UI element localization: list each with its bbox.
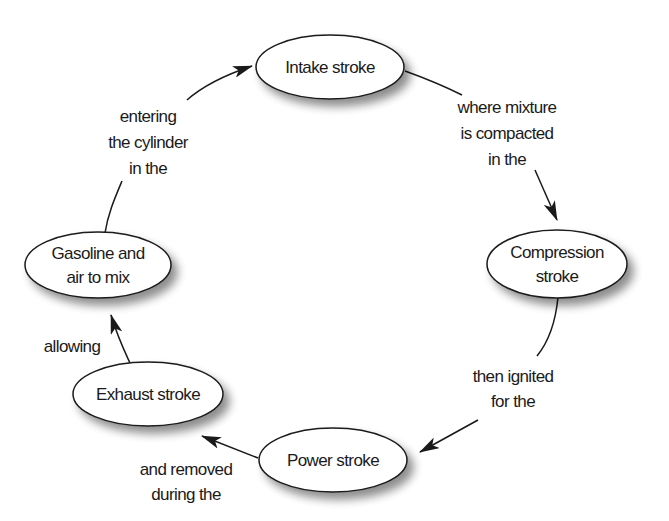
- edge-label-entering: entering the cylinder in the: [108, 107, 189, 178]
- node-intake-stroke: Intake stroke: [256, 35, 404, 99]
- edge-label-line2: for the: [491, 392, 535, 411]
- edge-intake-to-compression: [405, 71, 462, 95]
- edge-label-line2: is compacted: [461, 124, 554, 143]
- node-power-stroke: Power stroke: [259, 428, 407, 492]
- edge-label-and-removed: and removed during the: [140, 460, 233, 504]
- edge-label-line3: in the: [488, 150, 526, 169]
- node-label-line1: Compression: [510, 243, 604, 262]
- node-compression-stroke: Compression stroke: [487, 230, 627, 298]
- edge-label-line3: in the: [129, 159, 167, 178]
- edge-label-line1: entering: [120, 107, 177, 126]
- edge-label-where-mixture: where mixture is compacted in the: [457, 98, 557, 169]
- edge-label-line2: during the: [151, 485, 221, 504]
- node-label-line2: air to mix: [67, 268, 131, 287]
- edge-compression-to-power-arrow: [420, 420, 478, 452]
- edge-label-line1: and removed: [140, 460, 233, 479]
- edge-compression-to-power: [537, 297, 558, 356]
- edge-label-line1: then ignited: [473, 367, 554, 386]
- edge-gasoline-to-intake: [105, 181, 122, 233]
- node-label: Intake stroke: [285, 58, 375, 77]
- node-label: Power stroke: [287, 451, 379, 470]
- edge-label-line1: allowing: [44, 337, 101, 356]
- edge-label-line1: where mixture: [457, 98, 557, 117]
- edge-label-line2: the cylinder: [108, 133, 189, 152]
- node-exhaust-stroke: Exhaust stroke: [73, 362, 223, 426]
- concept-map-canvas: Intake stroke Compression stroke Power s…: [0, 0, 669, 521]
- edge-label-allowing: allowing: [44, 337, 101, 356]
- node-label-line1: Gasoline and: [52, 244, 145, 263]
- edge-gasoline-to-intake-arrow: [187, 66, 252, 100]
- node-gasoline-air-mix: Gasoline and air to mix: [25, 232, 171, 298]
- edge-label-then-ignited: then ignited for the: [473, 367, 554, 411]
- node-label-line2: stroke: [536, 267, 579, 286]
- edge-intake-to-compression-arrow: [535, 170, 557, 220]
- edge-power-to-exhaust: [202, 436, 258, 458]
- edge-exhaust-to-gasoline: [111, 315, 130, 363]
- node-label: Exhaust stroke: [96, 385, 200, 404]
